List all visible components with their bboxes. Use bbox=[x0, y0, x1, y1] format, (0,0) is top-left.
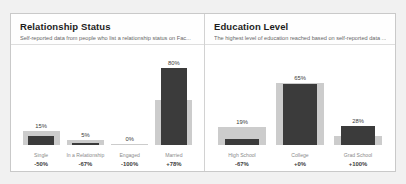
bar-group[interactable]: 0% bbox=[108, 49, 152, 145]
bar-group[interactable]: 65% bbox=[271, 49, 329, 145]
bar-value bbox=[28, 136, 55, 145]
bar-stack bbox=[108, 49, 152, 145]
axis-category-name: Married bbox=[152, 152, 196, 159]
bar-value-label: 28% bbox=[329, 118, 387, 125]
axis-labels: Single-50%In a Relationship-67%Engaged-1… bbox=[19, 146, 196, 168]
chart-relationship-status: 15%5%0%80% Single-50%In a Relationship-6… bbox=[11, 45, 204, 171]
axis-category-name: College bbox=[271, 152, 329, 159]
bar-group[interactable]: 28% bbox=[329, 49, 387, 145]
plot-area: 15%5%0%80% bbox=[19, 49, 196, 145]
bar-value-label: 5% bbox=[63, 132, 107, 139]
axis-category-name: Grad School bbox=[329, 152, 387, 159]
bar-value bbox=[72, 143, 99, 145]
bar-group[interactable]: 80% bbox=[152, 49, 196, 145]
axis-category-name: High School bbox=[213, 152, 271, 159]
axis-delta-value: +0% bbox=[271, 160, 329, 168]
panel-relationship-status: Relationship Status Self-reported data f… bbox=[11, 14, 205, 171]
axis-category-name: Single bbox=[19, 152, 63, 159]
panel-title: Relationship Status bbox=[20, 21, 195, 32]
bar-stack bbox=[19, 49, 63, 145]
dashboard-card: Relationship Status Self-reported data f… bbox=[10, 13, 396, 172]
axis-label-in-a-relationship: In a Relationship-67% bbox=[63, 152, 107, 168]
axis-labels: High School-67%College+0%Grad School+100… bbox=[213, 146, 387, 168]
bar-value bbox=[341, 126, 376, 145]
axis-delta-value: -67% bbox=[213, 160, 271, 168]
axis-label-high-school: High School-67% bbox=[213, 152, 271, 168]
bar-stack bbox=[329, 49, 387, 145]
panel-header: Education Level The highest level of edu… bbox=[205, 14, 395, 45]
plot-area: 19%65%28% bbox=[213, 49, 387, 145]
axis-delta-value: -100% bbox=[108, 160, 152, 168]
bar-stack bbox=[63, 49, 107, 145]
chart-education-level: 19%65%28% High School-67%College+0%Grad … bbox=[205, 45, 395, 171]
axis-label-college: College+0% bbox=[271, 152, 329, 168]
axis-label-single: Single-50% bbox=[19, 152, 63, 168]
panel-subtitle: Self-reported data from people who list … bbox=[20, 34, 195, 42]
panel-education-level: Education Level The highest level of edu… bbox=[205, 14, 395, 171]
axis-category-name: In a Relationship bbox=[63, 152, 107, 159]
axis-label-grad-school: Grad School+100% bbox=[329, 152, 387, 168]
bar-group[interactable]: 5% bbox=[63, 49, 107, 145]
panel-header: Relationship Status Self-reported data f… bbox=[11, 14, 204, 45]
axis-label-married: Married+78% bbox=[152, 152, 196, 168]
axis-category-name: Engaged bbox=[108, 152, 152, 159]
axis-label-engaged: Engaged-100% bbox=[108, 152, 152, 168]
bar-stack bbox=[213, 49, 271, 145]
bar-value-label: 19% bbox=[213, 119, 271, 126]
panel-subtitle: The highest level of education reached b… bbox=[214, 34, 386, 42]
axis-delta-value: -67% bbox=[63, 160, 107, 168]
bar-total bbox=[111, 144, 148, 145]
bar-value-label: 80% bbox=[152, 60, 196, 67]
axis-delta-value: -50% bbox=[19, 160, 63, 168]
axis-delta-value: +100% bbox=[329, 160, 387, 168]
bar-value bbox=[161, 68, 188, 145]
bar-value-label: 15% bbox=[19, 123, 63, 130]
bar-value bbox=[283, 84, 318, 145]
bar-value-label: 0% bbox=[108, 136, 152, 143]
bar-value bbox=[225, 139, 260, 145]
bar-value-label: 65% bbox=[271, 75, 329, 82]
panel-title: Education Level bbox=[214, 21, 386, 32]
axis-delta-value: +78% bbox=[152, 160, 196, 168]
bar-group[interactable]: 19% bbox=[213, 49, 271, 145]
bar-group[interactable]: 15% bbox=[19, 49, 63, 145]
bar-stack bbox=[271, 49, 329, 145]
